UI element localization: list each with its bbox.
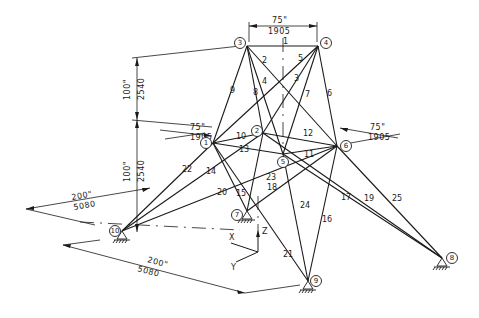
member-label-4: 4 <box>262 77 267 86</box>
height-dimension: 100" 2540 100" 2540 <box>123 46 240 232</box>
node-2: 2 <box>252 126 263 137</box>
member-label-6: 6 <box>327 89 332 98</box>
node-label: 8 <box>450 254 454 262</box>
node-10: 10 <box>110 226 121 237</box>
member-label-17: 17 <box>341 193 351 202</box>
node-label: 7 <box>235 211 239 219</box>
lower-height-imperial: 100" <box>123 161 132 182</box>
space-truss-figure: 100" 2540 100" 2540 75" 1905 75" 1905 75… <box>0 0 479 318</box>
member-label-18: 18 <box>267 183 277 192</box>
member-label-2: 2 <box>262 56 267 65</box>
member-label-13: 13 <box>239 145 249 154</box>
member-label-23: 23 <box>266 173 276 182</box>
top-width-metric: 1905 <box>268 27 290 36</box>
lower-height-metric: 2540 <box>137 160 146 182</box>
supports <box>113 211 450 293</box>
node-label: 1 <box>204 139 208 147</box>
upper-height-imperial: 100" <box>123 79 132 100</box>
node-1: 1 <box>201 138 212 149</box>
node-6: 6 <box>341 141 352 152</box>
node-label: 6 <box>344 142 349 150</box>
upper-height-metric: 2540 <box>137 78 146 100</box>
node-9: 9 <box>311 276 322 287</box>
member-label-14: 14 <box>206 167 216 176</box>
member-label-9: 9 <box>230 86 235 95</box>
member-16 <box>308 146 337 281</box>
node-label: 5 <box>281 158 285 166</box>
member-label-5: 5 <box>298 54 303 63</box>
mid-right-width-dimension: 75" 1905 <box>340 123 400 144</box>
member-label-15: 15 <box>236 189 246 198</box>
base-front-dimension: 200" 5080 <box>63 240 300 294</box>
truss-drawing: 100" 2540 100" 2540 75" 1905 75" 1905 75… <box>0 0 479 318</box>
member-19 <box>263 133 442 258</box>
y-axis-label: Y <box>230 263 236 272</box>
member-label-16: 16 <box>322 215 332 224</box>
member-label-3: 3 <box>294 74 299 83</box>
node-4: 4 <box>321 38 332 49</box>
node-8: 8 <box>447 253 458 264</box>
member-label-12: 12 <box>303 129 313 138</box>
node-label: 2 <box>255 127 259 135</box>
mid-left-imperial: 75" <box>190 123 205 132</box>
member-label-20: 20 <box>217 188 227 197</box>
member-label-10: 10 <box>236 132 246 141</box>
member-23 <box>247 133 263 211</box>
z-axis-label: Z <box>262 227 268 236</box>
member-12 <box>263 133 337 146</box>
member-25 <box>337 146 442 258</box>
member-label-11: 11 <box>304 150 314 159</box>
member-22 <box>122 143 213 231</box>
mid-right-imperial: 75" <box>370 123 385 132</box>
node-3: 3 <box>235 38 246 49</box>
member-label-22: 22 <box>182 165 192 174</box>
member-label-1: 1 <box>283 37 288 46</box>
member-label-24: 24 <box>300 201 310 210</box>
member-label-8: 8 <box>253 88 258 97</box>
coordinate-axes: Z X Y <box>229 227 268 272</box>
node-label: 10 <box>111 227 120 235</box>
node-7: 7 <box>232 210 243 221</box>
mid-right-metric: 1905 <box>368 133 390 142</box>
member-21 <box>213 143 308 281</box>
member-label-21: 21 <box>283 250 293 259</box>
member-label-25: 25 <box>392 194 402 203</box>
node-label: 3 <box>238 39 242 47</box>
top-width-imperial: 75" <box>272 16 287 25</box>
node-5: 5 <box>278 157 289 168</box>
member-label-19: 19 <box>364 194 374 203</box>
node-label: 9 <box>314 277 318 285</box>
member-label-7: 7 <box>305 90 310 99</box>
node-label: 4 <box>324 39 329 47</box>
x-axis-label: X <box>229 233 235 242</box>
